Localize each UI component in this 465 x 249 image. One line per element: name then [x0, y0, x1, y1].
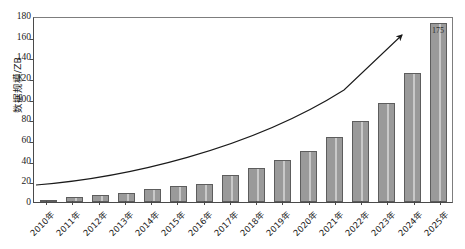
y-axis-tick-label: 100	[5, 95, 31, 104]
x-axis-tick-mark	[309, 201, 310, 205]
bar-slot	[243, 18, 269, 202]
y-axis-tick-mark	[30, 101, 34, 102]
y-axis-tick-label: 160	[5, 33, 31, 42]
x-axis-tick-mark	[151, 201, 152, 205]
x-axis-tick-mark	[46, 201, 47, 205]
x-axis-tick-mark	[204, 201, 205, 205]
bar[interactable]	[92, 195, 109, 202]
bar[interactable]: 175	[430, 23, 447, 202]
bar-slot	[295, 18, 321, 202]
bar-slot	[35, 18, 61, 202]
y-axis-tick-label: 0	[5, 198, 31, 207]
bar[interactable]	[326, 137, 343, 202]
bar[interactable]	[118, 193, 135, 202]
bar-slot	[321, 18, 347, 202]
bar-slot	[87, 18, 113, 202]
bar-slot	[61, 18, 87, 202]
bar[interactable]	[66, 197, 83, 202]
y-axis-tick-label: 140	[5, 53, 31, 62]
bar-chart: 数据规模/ZB 020406080100120140160180 175 201…	[0, 0, 465, 249]
bar-slot	[165, 18, 191, 202]
x-axis-tick-mark	[230, 201, 231, 205]
y-axis-tick-mark	[30, 80, 34, 81]
x-axis-tick-mark	[256, 201, 257, 205]
x-axis-tick-mark	[361, 201, 362, 205]
bar[interactable]	[404, 73, 421, 202]
y-axis-tick-mark	[30, 142, 34, 143]
y-axis-tick-mark	[30, 163, 34, 164]
bar-slot	[217, 18, 243, 202]
y-axis-tick-mark	[30, 183, 34, 184]
x-axis-tick-mark	[414, 201, 415, 205]
bar[interactable]	[196, 184, 213, 202]
y-axis-tick-label: 20	[5, 177, 31, 186]
y-axis-tick-label: 180	[5, 12, 31, 21]
bar-value-label: 175	[431, 26, 446, 35]
y-axis-tick-label: 120	[5, 74, 31, 83]
x-axis-tick-mark	[177, 201, 178, 205]
y-axis-tick-label: 80	[5, 115, 31, 124]
y-axis-tick-mark	[30, 39, 34, 40]
plot-area: 175	[33, 17, 453, 203]
bar[interactable]	[248, 168, 265, 202]
x-axis-tick-label: 2010年	[27, 208, 57, 238]
y-axis-tick-labels: 020406080100120140160180	[2, 0, 31, 249]
bar[interactable]	[378, 103, 395, 202]
x-axis-tick-mark	[440, 201, 441, 205]
bar-slot	[269, 18, 295, 202]
y-axis-tick-label: 60	[5, 136, 31, 145]
bar[interactable]	[274, 160, 291, 202]
bar-slot	[399, 18, 425, 202]
bar-slot	[113, 18, 139, 202]
bar[interactable]	[144, 189, 161, 202]
bar-slot	[373, 18, 399, 202]
x-axis-tick-mark	[335, 201, 336, 205]
x-axis-tick-mark	[125, 201, 126, 205]
x-axis-tick-mark	[72, 201, 73, 205]
y-axis-tick-mark	[30, 59, 34, 60]
x-axis-slot: 2025年	[427, 205, 453, 249]
bar[interactable]	[222, 175, 239, 202]
bar-slot	[191, 18, 217, 202]
y-axis-tick-mark	[30, 121, 34, 122]
x-axis-tick-labels: 2010年2011年2012年2013年2014年2015年2016年2017年…	[33, 205, 453, 249]
bar[interactable]	[170, 186, 187, 202]
y-axis-tick-label: 40	[5, 157, 31, 166]
bar-slot	[139, 18, 165, 202]
bar[interactable]	[40, 200, 57, 202]
x-axis-tick-mark	[99, 201, 100, 205]
bar[interactable]	[300, 151, 317, 202]
x-axis-tick-mark	[387, 201, 388, 205]
bar-series: 175	[34, 18, 452, 202]
bar[interactable]	[352, 121, 369, 202]
x-axis-tick-mark	[282, 201, 283, 205]
bar-slot	[347, 18, 373, 202]
bar-slot: 175	[425, 18, 451, 202]
